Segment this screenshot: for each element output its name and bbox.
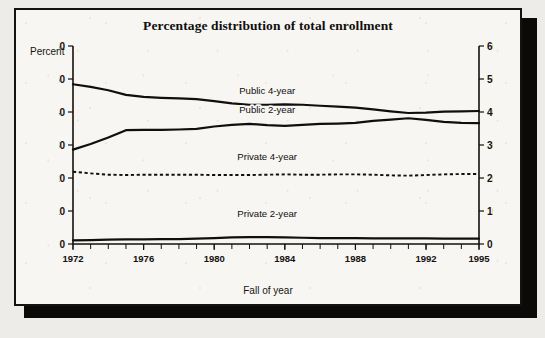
svg-text:10: 10 <box>487 206 493 217</box>
x-axis-caption: Fall of year <box>16 285 520 296</box>
series-private-4-year <box>73 172 479 176</box>
series-private-2-year <box>73 237 479 240</box>
svg-text:60: 60 <box>59 41 65 52</box>
svg-text:40: 40 <box>487 107 493 118</box>
svg-text:50: 50 <box>59 74 65 85</box>
svg-text:Private 2-year: Private 2-year <box>237 208 298 219</box>
svg-text:1980: 1980 <box>204 253 225 264</box>
svg-text:0: 0 <box>59 239 65 250</box>
svg-text:20: 20 <box>487 173 493 184</box>
svg-text:30: 30 <box>59 140 65 151</box>
scanned-page: Percentage distribution of total enrollm… <box>0 0 545 338</box>
svg-text:1984: 1984 <box>274 253 296 264</box>
svg-text:1988: 1988 <box>345 253 366 264</box>
svg-text:60: 60 <box>487 41 493 52</box>
svg-text:1995: 1995 <box>468 253 490 264</box>
svg-text:Public 2-year: Public 2-year <box>239 104 296 115</box>
line-chart: 0010102020303040405050606019721976198019… <box>59 40 493 274</box>
svg-text:20: 20 <box>59 173 65 184</box>
svg-text:30: 30 <box>487 140 493 151</box>
svg-text:10: 10 <box>59 206 65 217</box>
chart-figure: Percentage distribution of total enrollm… <box>14 8 522 306</box>
svg-text:1976: 1976 <box>133 253 154 264</box>
page-title: Percentage distribution of total enrollm… <box>16 18 520 34</box>
svg-text:1972: 1972 <box>62 253 83 264</box>
svg-text:0: 0 <box>487 239 493 250</box>
svg-text:Private 4-year: Private 4-year <box>237 151 298 162</box>
series-labels: Public 4-yearPublic 4-yearPublic 2-yearP… <box>237 85 298 219</box>
svg-text:50: 50 <box>487 74 493 85</box>
series-public-2-year <box>73 118 479 149</box>
plot-area: 0010102020303040405050606019721976198019… <box>59 40 493 274</box>
svg-text:1992: 1992 <box>415 253 436 264</box>
svg-text:40: 40 <box>59 107 65 118</box>
svg-text:Public 4-year: Public 4-year <box>239 85 296 96</box>
